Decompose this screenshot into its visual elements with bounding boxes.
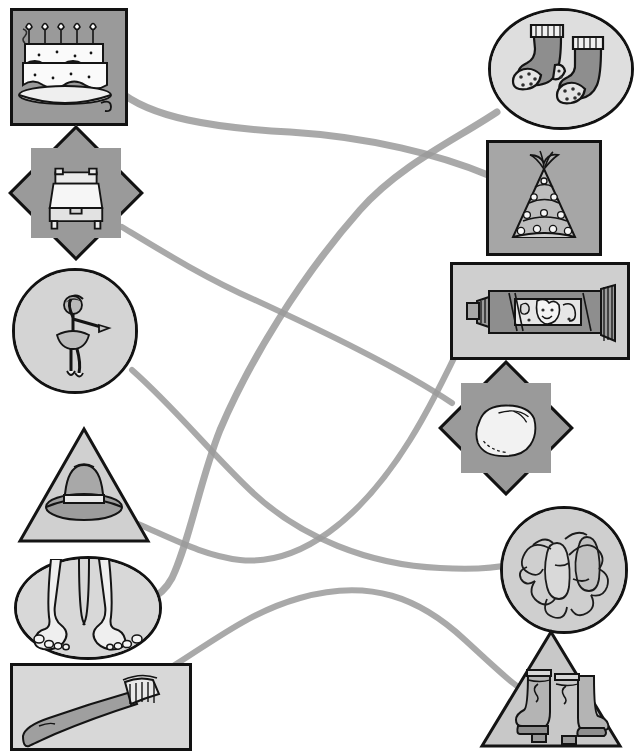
- ballet-shoes-icon: [503, 509, 625, 631]
- feet-frame: [14, 556, 162, 660]
- socks-icon: [491, 11, 631, 127]
- cowboy-hat-icon: [16, 425, 152, 545]
- boots-frame: [478, 628, 624, 750]
- toothpaste-icon: [453, 265, 627, 357]
- match-item-feet[interactable]: Bare feet: [14, 556, 162, 660]
- match-item-toothpaste[interactable]: Toothpaste tube: [450, 262, 630, 360]
- toothpaste-frame: [450, 262, 630, 360]
- match-item-bed[interactable]: Bed: [28, 145, 124, 241]
- pillow-frame: [438, 360, 574, 496]
- cowboy-boots-icon: [478, 628, 624, 750]
- bed-icon: [31, 148, 121, 238]
- connector-cake-to-party-hat: [118, 90, 488, 175]
- toothbrush-icon: [13, 666, 189, 748]
- worksheet-canvas: Picture Matching Worksheet Draw a line t…: [0, 0, 638, 751]
- match-item-pillow[interactable]: Pillow: [458, 380, 554, 476]
- match-item-boots[interactable]: Cowboy boots: [478, 628, 624, 750]
- match-item-hat[interactable]: Cowboy hat: [16, 425, 152, 545]
- bare-feet-icon: [17, 559, 159, 657]
- match-item-ballerina[interactable]: Ballerina dancer: [12, 268, 138, 394]
- match-item-cake[interactable]: Birthday cake: [10, 8, 128, 126]
- birthday-cake-icon: [13, 11, 125, 123]
- connector-hat-to-toothpaste: [138, 308, 478, 561]
- connector-bed-to-pillow: [122, 227, 452, 403]
- toothbrush-frame: [10, 663, 192, 751]
- match-item-party-hat[interactable]: Party hat: [486, 140, 602, 256]
- hat-frame: [16, 425, 152, 545]
- party-hat-icon: [489, 143, 599, 253]
- connector-socks-to-feet: [120, 112, 497, 603]
- cake-frame: [10, 8, 128, 126]
- pillow-icon: [461, 383, 551, 473]
- match-item-toothbrush[interactable]: Toothbrush: [10, 663, 192, 751]
- socks-frame: [488, 8, 634, 130]
- party-hat-frame: [486, 140, 602, 256]
- ballerina-icon: [15, 271, 135, 391]
- ballet-shoes-frame: [500, 506, 628, 634]
- match-item-socks[interactable]: Pair of socks: [488, 8, 634, 130]
- ballerina-frame: [12, 268, 138, 394]
- match-item-ballet-shoes[interactable]: Ballet shoes: [500, 506, 628, 634]
- bed-frame: [8, 125, 144, 261]
